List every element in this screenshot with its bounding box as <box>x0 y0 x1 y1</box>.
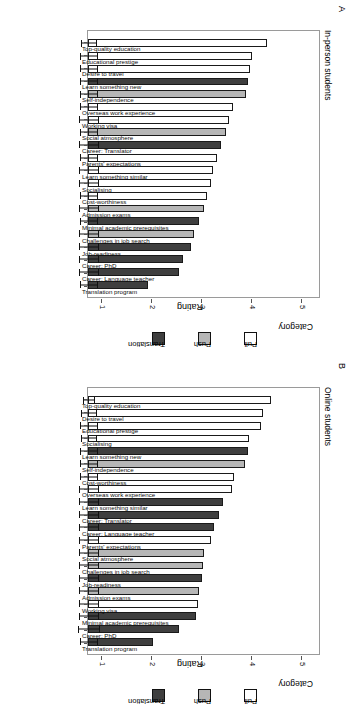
category-label: Admission exams <box>82 211 131 218</box>
axis-tick <box>301 299 302 303</box>
category-tick <box>84 273 87 274</box>
category-tick <box>84 502 87 503</box>
category-tick <box>84 170 87 171</box>
category-label: Cost-worthiness <box>82 198 126 205</box>
category-label: Self-independence <box>82 466 134 473</box>
category-label: Cost-worthiness <box>82 479 126 486</box>
category-label: Translation program <box>82 645 137 652</box>
legend-label: Pull <box>244 340 257 349</box>
category-tick <box>84 106 87 107</box>
axis-tick <box>151 299 152 303</box>
axis-tick-label: 2 <box>147 662 156 666</box>
legend-item-push[interactable]: Push <box>167 330 211 354</box>
bar[interactable] <box>88 435 249 443</box>
axis-tick-label: 1 <box>97 662 106 666</box>
category-label: Career: Language teacher <box>82 530 154 537</box>
legend-item-translation[interactable]: Translation <box>121 330 165 354</box>
category-label: Career: Language teacher <box>82 275 154 282</box>
category-label: Career: PhD <box>82 262 116 269</box>
category-tick <box>84 260 87 261</box>
category-tick <box>84 55 87 56</box>
axis-title-rating: Rating <box>177 659 203 669</box>
bar-cell <box>88 253 319 266</box>
legend-label: Translation <box>128 340 165 349</box>
axis-tick <box>251 299 252 303</box>
legend-item-pull[interactable]: Pull <box>213 687 257 711</box>
category-tick <box>84 183 87 184</box>
category-tick <box>84 145 87 146</box>
category-label: Job-readiness <box>82 250 121 257</box>
category-label: Working visa <box>82 607 117 614</box>
axis-tick <box>301 656 302 660</box>
category-tick <box>84 286 87 287</box>
category-label: Learn something new <box>82 83 141 90</box>
panel-b: BOnline students12345RatingTop-quality e… <box>0 357 353 714</box>
category-tick <box>84 438 87 439</box>
legend: CategoryPullPushTranslation <box>63 687 313 711</box>
legend-label: Pull <box>244 697 257 706</box>
axis-tick <box>101 299 102 303</box>
category-tick <box>84 566 87 567</box>
category-label: Overseas work experience <box>82 491 155 498</box>
category-tick <box>84 604 87 605</box>
category-labels: Top-quality educationEducational prestig… <box>1 36 85 292</box>
category-label: Learn something similar <box>82 173 148 180</box>
panel-letter: A <box>337 6 347 12</box>
category-label: Social atmosphere <box>82 134 133 141</box>
category-tick <box>84 463 87 464</box>
category-label: Minimal academic prerequisites <box>82 619 169 626</box>
category-tick <box>84 515 87 516</box>
category-tick <box>84 81 87 82</box>
category-labels: Top-quality educationDesire to travelEdu… <box>1 393 85 649</box>
legend-item-pull[interactable]: Pull <box>213 330 257 354</box>
category-tick <box>84 579 87 580</box>
category-tick <box>84 94 87 95</box>
category-tick <box>84 399 87 400</box>
category-label: Job-readiness <box>82 581 121 588</box>
axis-tick-label: 4 <box>247 305 256 309</box>
category-tick <box>84 196 87 197</box>
axis-tick-label: 1 <box>97 305 106 309</box>
panel-a: AIn-person students12345RatingTop-qualit… <box>0 0 353 357</box>
panel-letter: B <box>337 363 347 369</box>
category-label: Challenges in job search <box>82 568 150 575</box>
legend-label: Push <box>194 340 211 349</box>
category-tick <box>84 489 87 490</box>
axis-tick <box>251 656 252 660</box>
category-tick <box>84 425 87 426</box>
legend-item-translation[interactable]: Translation <box>121 687 165 711</box>
figure: AIn-person students12345RatingTop-qualit… <box>0 0 353 714</box>
category-label: Minimal academic prerequisites <box>82 224 169 231</box>
category-label: Career: PhD <box>82 632 116 639</box>
axis-title-rating: Rating <box>177 302 203 312</box>
category-tick <box>84 451 87 452</box>
category-label: Overseas work experience <box>82 109 155 116</box>
category-tick <box>84 412 87 413</box>
category-tick <box>84 553 87 554</box>
axis-tick <box>101 656 102 660</box>
category-tick <box>84 132 87 133</box>
category-label: Educational prestige <box>82 58 138 65</box>
legend-title: Category <box>279 322 314 332</box>
category-label: Learn something similar <box>82 504 148 511</box>
category-label: Desire to travel <box>82 415 124 422</box>
legend-item-push[interactable]: Push <box>167 687 211 711</box>
category-tick <box>84 42 87 43</box>
category-tick <box>84 540 87 541</box>
category-tick <box>84 591 87 592</box>
category-label: Parents' expectations <box>82 160 141 167</box>
category-tick <box>84 68 87 69</box>
category-tick <box>84 476 87 477</box>
category-label: Top-quality education <box>82 45 140 52</box>
category-tick <box>84 158 87 159</box>
category-label: Admission exams <box>82 594 131 601</box>
category-tick <box>84 247 87 248</box>
category-tick <box>84 617 87 618</box>
figure-rotation-wrapper: AIn-person students12345RatingTop-qualit… <box>0 0 353 714</box>
legend-title: Category <box>279 679 314 689</box>
category-tick <box>84 119 87 120</box>
category-tick <box>84 209 87 210</box>
category-label: Social atmosphere <box>82 555 133 562</box>
category-label: Socialising <box>82 186 112 193</box>
category-label: Parents' expectations <box>82 543 141 550</box>
